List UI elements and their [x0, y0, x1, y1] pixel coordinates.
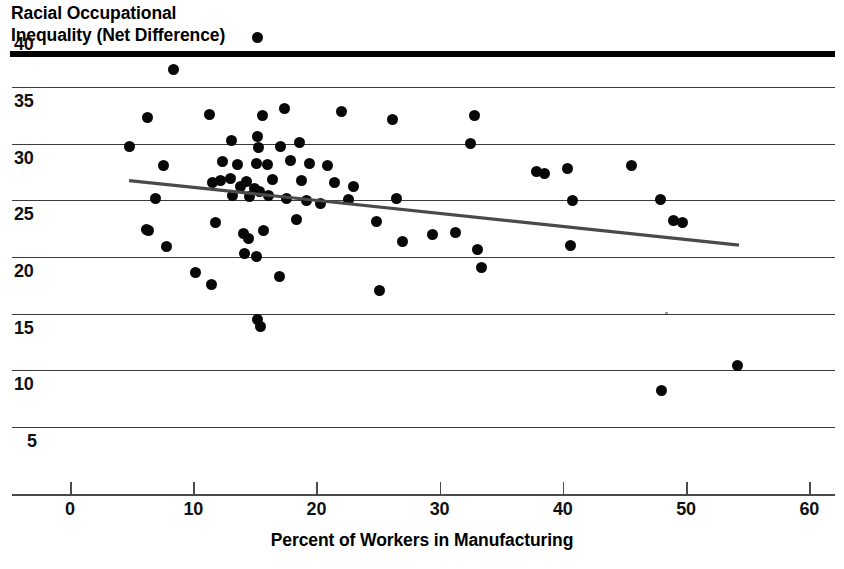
datapoint [227, 190, 238, 201]
datapoint [655, 194, 666, 205]
datapoint [315, 198, 326, 209]
datapoint [255, 321, 266, 332]
datapoint [279, 103, 290, 114]
x-tick-label-50: 50 [676, 500, 696, 518]
y-tick-label-5: 5 [27, 432, 37, 450]
datapoint [143, 225, 154, 236]
datapoint [427, 229, 438, 240]
datapoint [322, 160, 333, 171]
x-tick-label-30: 30 [430, 500, 450, 518]
datapoint [253, 142, 264, 153]
datapoint [656, 385, 667, 396]
datapoint [190, 267, 201, 278]
x-tick-mark-10 [193, 482, 195, 495]
datapoint [626, 160, 637, 171]
datapoint [291, 214, 302, 225]
datapoint [450, 227, 461, 238]
datapoint [142, 112, 153, 123]
datapoint [243, 233, 254, 244]
x-tick-mark-30 [440, 482, 442, 495]
scan-artifact-speck [665, 312, 668, 314]
y-tick-label-10: 10 [14, 375, 34, 393]
datapoint [472, 244, 483, 255]
gridline-y-25 [12, 200, 835, 201]
gridline-y-30 [12, 144, 835, 145]
gridline-y-20 [12, 257, 835, 258]
datapoint [239, 248, 250, 259]
gridline-y-5 [12, 427, 835, 428]
datapoint [539, 168, 550, 179]
datapoint [232, 159, 243, 170]
datapoint [397, 236, 408, 247]
y-tick-label-25: 25 [14, 205, 34, 223]
datapoint [343, 194, 354, 205]
datapoint [567, 195, 578, 206]
datapoint [274, 271, 285, 282]
y-tick-label-35: 35 [14, 92, 34, 110]
y-tick-label-15: 15 [14, 319, 34, 337]
datapoint [225, 173, 236, 184]
scatter-plot-figure: Racial Occupational Inequality (Net Diff… [0, 0, 844, 569]
x-tick-label-0: 0 [65, 500, 75, 518]
datapoint [296, 175, 307, 186]
datapoint [206, 279, 217, 290]
datapoint [391, 193, 402, 204]
y-tick-label-30: 30 [14, 149, 34, 167]
x-tick-label-10: 10 [183, 500, 203, 518]
x-tick-label-20: 20 [307, 500, 327, 518]
datapoint [217, 156, 228, 167]
datapoint [732, 360, 743, 371]
datapoint [387, 114, 398, 125]
x-tick-mark-60 [809, 482, 811, 495]
x-tick-mark-0 [70, 482, 72, 495]
datapoint [294, 137, 305, 148]
datapoint [158, 160, 169, 171]
x-tick-mark-50 [686, 482, 688, 495]
datapoint [210, 217, 221, 228]
datapoint [336, 106, 347, 117]
datapoint [275, 141, 286, 152]
datapoint [329, 177, 340, 188]
datapoint [257, 110, 268, 121]
datapoint [251, 251, 262, 262]
datapoint [252, 32, 263, 43]
x-tick-mark-20 [316, 482, 318, 495]
datapoint [562, 163, 573, 174]
datapoint [285, 155, 296, 166]
datapoint [168, 64, 179, 75]
datapoint [374, 285, 385, 296]
datapoint [371, 216, 382, 227]
datapoint [677, 217, 688, 228]
datapoint [204, 109, 215, 120]
plot-area: 510152025303540 0102030405060 [0, 0, 844, 569]
datapoint [304, 158, 315, 169]
datapoint [469, 110, 480, 121]
gridline-y-15 [12, 314, 835, 315]
datapoint [281, 193, 292, 204]
datapoint [465, 138, 476, 149]
datapoint [252, 131, 263, 142]
datapoint [251, 158, 262, 169]
datapoint [263, 190, 274, 201]
gridline-y-35 [12, 87, 835, 88]
x-tick-label-60: 60 [799, 500, 819, 518]
y-tick-label-20: 20 [14, 262, 34, 280]
y-tick-label-40: 40 [14, 35, 34, 53]
datapoint [262, 159, 273, 170]
datapoint [124, 141, 135, 152]
datapoint [301, 195, 312, 206]
datapoint [348, 181, 359, 192]
datapoint [476, 262, 487, 273]
datapoint [161, 241, 172, 252]
datapoint [565, 240, 576, 251]
datapoint [258, 225, 269, 236]
gridline-y-10 [12, 370, 835, 371]
trendline [0, 0, 844, 569]
x-tick-label-40: 40 [553, 500, 573, 518]
x-axis-title: Percent of Workers in Manufacturing [0, 530, 844, 551]
x-tick-mark-40 [563, 482, 565, 495]
datapoint [150, 193, 161, 204]
datapoint [267, 174, 278, 185]
x-axis-line [12, 494, 835, 496]
